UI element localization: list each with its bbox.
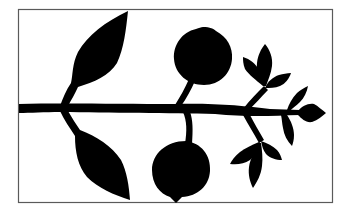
- branch-silhouette-illustration: [0, 0, 349, 209]
- illustration-canvas: Black silhouette of a fruiting branch wi…: [0, 0, 349, 209]
